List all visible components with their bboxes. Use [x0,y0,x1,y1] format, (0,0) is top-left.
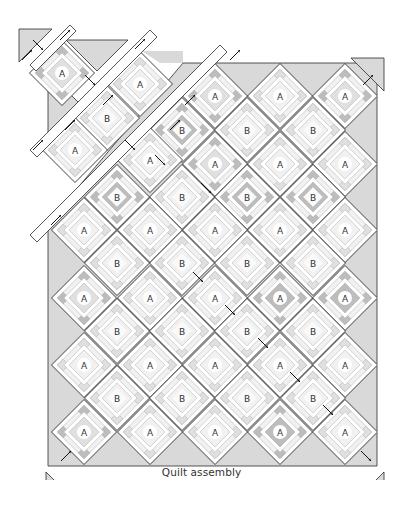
block-label: B [114,394,120,404]
block-label: A [277,226,284,236]
block-label: A [342,361,349,371]
block-label: A [212,361,219,371]
block-label: B [310,126,316,136]
block-label: A [212,226,219,236]
block-label: A [277,160,284,170]
block-label: A [212,428,219,438]
block-label: B [244,259,250,269]
block-label: B [244,327,250,337]
block-label: A [342,92,349,102]
block-label: B [179,394,185,404]
figure-caption: Quilt assembly [0,466,403,478]
block-label: B [179,193,185,203]
block-label: B [179,259,185,269]
block-label: B [114,193,120,203]
block-label: A [81,428,88,438]
block-label: A [277,428,284,438]
block-label: A [342,160,349,170]
block-label: B [114,327,120,337]
block-label: B [310,327,316,337]
block-label: A [81,226,88,236]
block-label: A [212,160,219,170]
block-label: B [310,259,316,269]
block-label: A [137,80,144,90]
block-label: A [342,226,349,236]
block-label: B [310,394,316,404]
block-label: A [59,69,66,79]
block-label: A [212,294,219,304]
block-label: B [104,114,110,124]
block-label: A [147,156,154,166]
block-label: B [114,259,120,269]
pressing-arrow-icon [230,50,240,60]
block-label: A [342,294,349,304]
block-label: A [277,294,284,304]
block-label: B [179,126,185,136]
block-label: A [342,428,349,438]
block-label: A [147,428,154,438]
block-label: B [310,193,316,203]
block-label: B [179,327,185,337]
block-label: A [147,294,154,304]
block-label: A [147,226,154,236]
block-label: B [244,126,250,136]
block-label: A [277,361,284,371]
quilt-assembly-diagram: AAABBBAAABBBBAAAAABBBBAAAAABBBBAAAAABBBB… [0,0,403,480]
block-label: A [72,146,79,156]
block-label: A [277,92,284,102]
block-label: A [81,361,88,371]
block-label: B [244,394,250,404]
block-label: A [212,92,219,102]
block-label: A [81,294,88,304]
block-label: B [244,193,250,203]
block-label: A [147,361,154,371]
